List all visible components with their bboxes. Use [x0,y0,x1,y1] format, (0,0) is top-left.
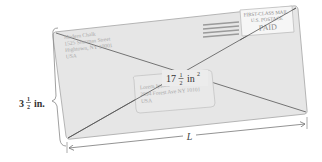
envelope-svg: FIRST-CLASS MAIL U.S. POSTAGE PAID Moder… [0,0,322,162]
height-numerator: 1 [27,96,30,102]
height-whole: 3 [19,98,24,109]
postage-indicia: FIRST-CLASS MAIL U.S. POSTAGE PAID [240,6,294,36]
area-denominator: 2 [180,80,183,86]
recipient-line-3: USA [141,97,153,104]
area-whole: 17 [166,73,176,84]
area-label: 17 1 2 in 2 [162,70,208,86]
area-exponent: 2 [197,71,200,77]
area-unit: in [187,73,195,84]
height-unit: in. [34,98,45,109]
length-label: L [186,131,193,142]
return-address-line-4: USA [65,52,77,59]
envelope-diagram: FIRST-CLASS MAIL U.S. POSTAGE PAID Moder… [0,0,322,162]
area-numerator: 1 [180,72,183,78]
height-denominator: 2 [27,104,30,110]
height-label: 3 1 2 in. [19,96,45,110]
